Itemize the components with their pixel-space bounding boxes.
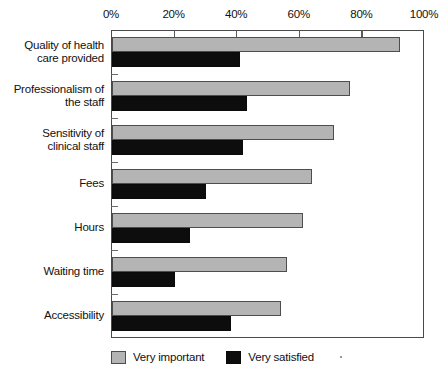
x-axis-tick-label: 80% xyxy=(350,8,372,21)
category-separator-tick xyxy=(111,118,118,119)
chart-legend: Very important Very satisfied xyxy=(111,348,342,366)
x-axis-labels: 0%20%40%60%80%100% xyxy=(111,8,424,24)
category-separator-tick xyxy=(111,250,118,251)
bar-very-important xyxy=(112,257,287,272)
legend-swatch-icon-very-important xyxy=(111,351,126,364)
bar-very-important xyxy=(112,169,312,184)
category-label-line: care provided xyxy=(0,52,104,66)
x-axis-tick-mark xyxy=(361,30,362,37)
legend-item-very-important: Very important xyxy=(111,351,204,364)
legend-label-very-satisfied: Very satisfied xyxy=(248,351,314,364)
bar-chart: 0%20%40%60%80%100% Quality of healthcare… xyxy=(0,0,442,372)
x-axis-tick-mark xyxy=(174,30,175,37)
category-label-line: Accessibility xyxy=(0,309,104,323)
category-label: Quality of healthcare provided xyxy=(0,39,104,66)
bar-very-important xyxy=(112,81,350,96)
category-label-line: Waiting time xyxy=(0,265,104,279)
category-label: Hours xyxy=(0,221,104,235)
category-label-line: Professionalism of xyxy=(0,83,104,97)
category-label-line: Hours xyxy=(0,221,104,235)
bar-very-satisfied xyxy=(112,96,247,111)
category-label: Professionalism ofthe staff xyxy=(0,83,104,110)
bar-very-important xyxy=(112,37,400,52)
category-label-line: Fees xyxy=(0,177,104,191)
category-separator-tick xyxy=(111,294,118,295)
legend-item-very-satisfied: Very satisfied xyxy=(226,351,314,364)
x-axis-tick-label: 0% xyxy=(103,8,119,21)
x-axis-tick-mark xyxy=(236,30,237,37)
category-label-line: Quality of health xyxy=(0,39,104,53)
category-label: Sensitivity ofclinical staff xyxy=(0,127,104,154)
category-separator-tick xyxy=(111,162,118,163)
bar-very-satisfied xyxy=(112,184,206,199)
x-axis-tick-mark xyxy=(299,30,300,37)
legend-label-very-important: Very important xyxy=(133,351,204,364)
bar-very-satisfied xyxy=(112,316,231,331)
bar-very-satisfied xyxy=(112,228,190,243)
x-axis-tick-label: 60% xyxy=(288,8,310,21)
bar-very-satisfied xyxy=(112,52,240,67)
category-separator-tick xyxy=(111,206,118,207)
stray-speck-icon xyxy=(340,356,342,358)
bar-very-important xyxy=(112,213,303,228)
category-label-line: Sensitivity of xyxy=(0,127,104,141)
x-axis-tick-label: 20% xyxy=(162,8,184,21)
x-axis-tick-label: 100% xyxy=(410,8,439,21)
legend-swatch-icon-very-satisfied xyxy=(226,351,241,364)
bar-very-satisfied xyxy=(112,272,175,287)
category-separator-tick xyxy=(111,74,118,75)
category-label: Accessibility xyxy=(0,309,104,323)
category-label: Fees xyxy=(0,177,104,191)
category-label-line: the staff xyxy=(0,96,104,110)
bar-very-important xyxy=(112,301,281,316)
bar-very-satisfied xyxy=(112,140,243,155)
category-label-line: clinical staff xyxy=(0,140,104,154)
category-label: Waiting time xyxy=(0,265,104,279)
x-axis-tick-label: 40% xyxy=(225,8,247,21)
bar-very-important xyxy=(112,125,334,140)
